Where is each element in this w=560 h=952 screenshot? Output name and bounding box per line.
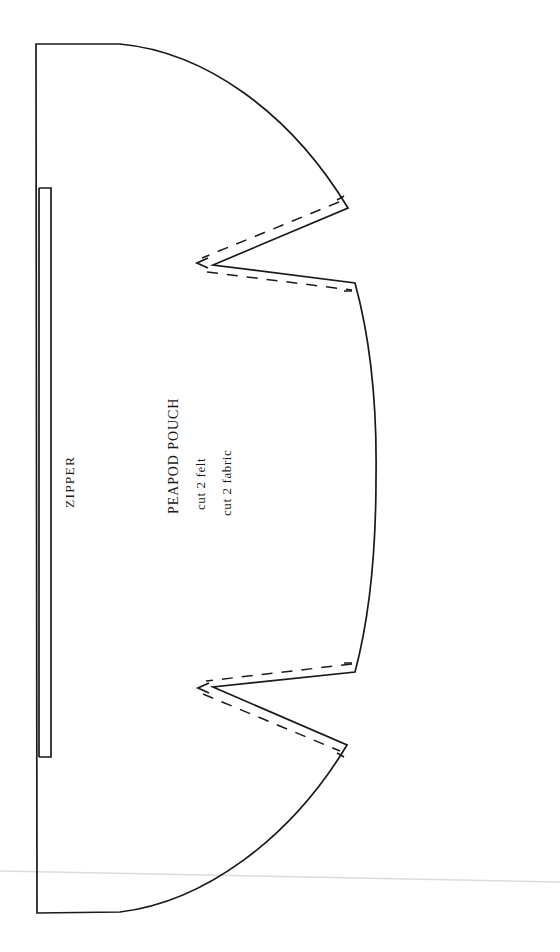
seam-line-lower-outer — [203, 694, 340, 751]
pattern-name-label: PEAPOD POUCH — [166, 398, 182, 514]
seam-line-upper-outer — [202, 202, 339, 258]
cut-instruction-fabric-label: cut 2 fabric — [219, 450, 235, 516]
seam-line-lower-inner — [206, 664, 352, 681]
scan-artifact-line — [0, 871, 560, 882]
zipper-label: ZIPPER — [62, 456, 78, 508]
pattern-drawing — [0, 0, 560, 952]
notch-marker-upper-icon — [197, 258, 208, 268]
notch-marker-lower-icon — [198, 683, 209, 693]
cut-instruction-felt-label: cut 2 felt — [193, 458, 209, 510]
pattern-sheet: ZIPPER PEAPOD POUCH cut 2 felt cut 2 fab… — [0, 0, 560, 952]
zipper-placement-bracket — [39, 188, 51, 757]
seam-line-upper-inner — [207, 272, 352, 290]
